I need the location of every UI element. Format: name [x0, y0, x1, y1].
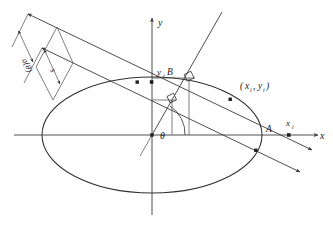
point-b-label: B	[167, 67, 173, 77]
dimension-label-s: s	[48, 67, 59, 75]
dot-y-i	[150, 80, 154, 84]
dot-origin	[150, 133, 153, 136]
svg-text:): )	[265, 81, 269, 92]
svg-text:(: (	[240, 81, 244, 92]
dot-lower-right	[254, 149, 257, 152]
svg-text:,: ,	[253, 81, 255, 91]
figure-caption	[0, 216, 333, 232]
svg-text:y: y	[156, 67, 161, 77]
projection-helper-lines	[152, 78, 195, 135]
svg-text:i: i	[292, 124, 294, 130]
y-axis-label: y	[157, 17, 163, 28]
dimension-s	[36, 27, 73, 100]
x-axis-label: x	[319, 130, 325, 141]
point-coordinate-label: ( x i , y i )	[240, 81, 269, 93]
svg-text:i: i	[263, 87, 265, 93]
theta-label: θ	[160, 130, 165, 141]
dot-point-p	[229, 98, 232, 101]
dimension-label-a-theta: a(θ)	[20, 57, 35, 74]
figure-root: y y i x x i θ B A ( x i , y i ) a(θ)	[0, 0, 333, 232]
svg-text:i: i	[250, 87, 252, 93]
geometry-diagram: y y i x x i θ B A ( x i , y i ) a(θ)	[0, 0, 333, 232]
dot-x-i	[287, 133, 291, 137]
dot-upper-left	[136, 80, 139, 83]
point-a-label: A	[265, 124, 272, 134]
x-i-tick-label: x i	[285, 118, 294, 130]
svg-text:x: x	[285, 118, 290, 128]
